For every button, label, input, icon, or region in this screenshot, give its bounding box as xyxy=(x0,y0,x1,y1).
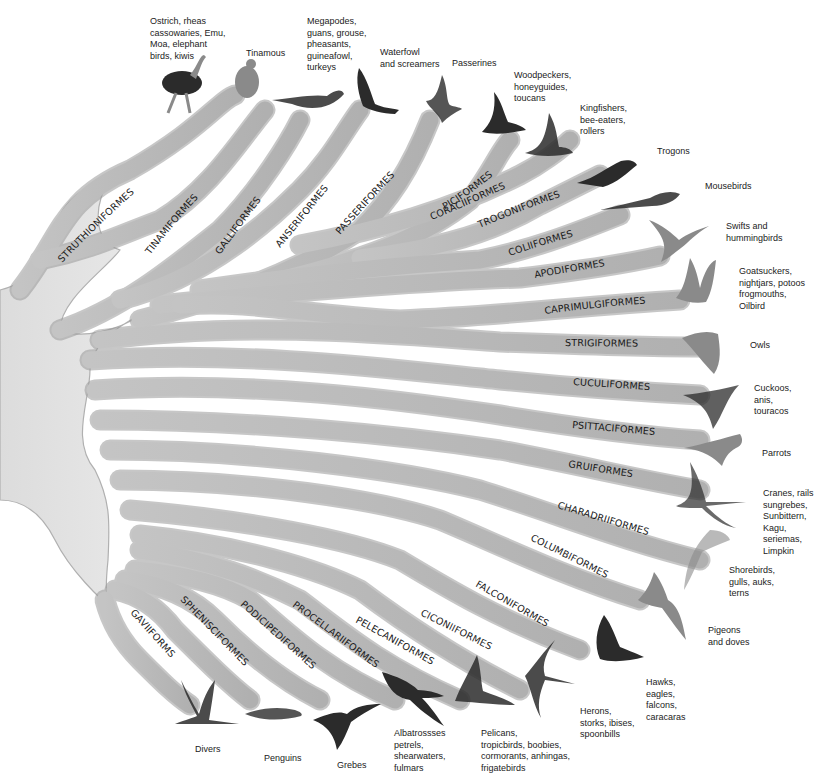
desc-tinamiformes: Tinamous xyxy=(246,48,285,60)
desc-pelecaniformes: Pelicans, tropicbirds, boobies, cormoran… xyxy=(481,728,570,774)
desc-caprimulgiformes: Goatsuckers, nightjars, potoos frogmouth… xyxy=(739,266,805,312)
desc-strigiformes: Owls xyxy=(750,340,770,352)
mousebird-icon xyxy=(600,192,680,210)
desc-coraciiformes: Kingfishers, bee-eaters, rollers xyxy=(580,103,627,138)
desc-cuculiformes: Cuckoos, anis, touracos xyxy=(754,383,792,418)
bird-orders-tree: STRUTHIONIFORMES TINAMIFORMES GALLIFORME… xyxy=(0,0,817,783)
desc-gaviiformes: Divers xyxy=(195,744,221,756)
desc-coliiformes: Mousebirds xyxy=(705,181,752,193)
desc-apodiformes: Swifts and hummingbirds xyxy=(726,221,783,244)
desc-passeriformes: Passerines xyxy=(452,58,497,70)
desc-trogoniformes: Trogons xyxy=(657,146,690,158)
desc-piciformes: Woodpeckers, honeyguides, toucans xyxy=(514,70,571,105)
desc-ciconiiformes: Herons, storks, ibises, spoonbills xyxy=(580,706,635,741)
desc-gruiformes: Cranes, rails sungrebes, Sunbittern, Kag… xyxy=(763,488,817,557)
desc-procellariiformes: Albatrossses petrels, shearwaters, fulma… xyxy=(394,728,446,774)
desc-charadriiformes: Shorebirds, gulls, auks, terns xyxy=(729,565,775,600)
desc-struthioniformes: Ostrich, rheas cassowaries, Emu, Moa, el… xyxy=(150,16,226,62)
label-strigiformes: STRIGIFORMES xyxy=(565,337,638,349)
desc-podicipediformes: Grebes xyxy=(337,760,367,772)
desc-falconiformes: Hawks, eagles, falcons, caracaras xyxy=(646,677,686,723)
branches xyxy=(20,95,700,705)
ostrich-icon xyxy=(162,55,206,113)
grebe-icon xyxy=(313,704,381,750)
desc-psittaciformes: Parrots xyxy=(762,448,791,460)
hawk-icon xyxy=(597,615,644,661)
desc-columbiformes: Pigeons and doves xyxy=(708,625,750,648)
nightjar-icon xyxy=(676,258,716,303)
pheasant-icon xyxy=(272,90,344,108)
desc-anseriformes: Waterfowl and screamers xyxy=(380,47,440,70)
tinamou-icon xyxy=(235,59,259,98)
desc-sphenisciformes: Penguins xyxy=(264,753,302,765)
desc-galliformes: Megapodes, guans, grouse, pheasants, gui… xyxy=(307,16,367,74)
